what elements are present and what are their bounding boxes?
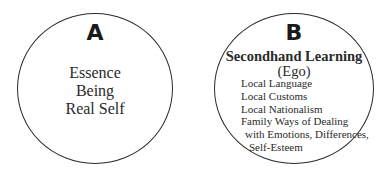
circle-b-label: B (214, 20, 374, 45)
being-text: Being (17, 82, 173, 100)
circle-a-content: Essence Being Real Self (17, 64, 173, 118)
list-item: Local Language (241, 77, 369, 90)
list-item: Local Customs (241, 90, 369, 103)
circle-b-title: Secondhand Learning (214, 48, 374, 64)
list-item: Self-Esteem (241, 141, 369, 154)
real-self-text: Real Self (17, 100, 173, 118)
list-item: Local Nationalism (241, 103, 369, 116)
circle-b-list: Local Language Local Customs Local Natio… (241, 77, 369, 154)
circle-a-label: A (17, 20, 173, 45)
essence-text: Essence (17, 64, 173, 82)
list-item: with Emotions, Differences, (241, 128, 369, 141)
list-item: Family Ways of Dealing (241, 115, 369, 128)
